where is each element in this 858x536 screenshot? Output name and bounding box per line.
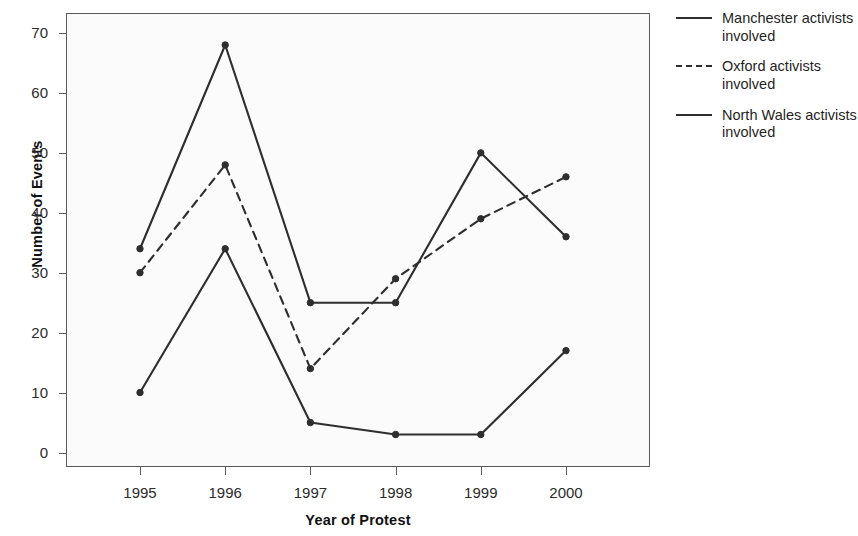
legend-dashed-line-icon bbox=[676, 65, 712, 69]
legend-label: North Wales activists involved bbox=[722, 107, 858, 142]
data-point-marker bbox=[392, 276, 398, 282]
legend-label: Manchester activists involved bbox=[722, 10, 858, 45]
legend-solid-line-icon bbox=[676, 17, 712, 21]
line-chart: Number of Events 706050403020100 1995199… bbox=[0, 0, 858, 536]
series-line bbox=[140, 45, 566, 303]
data-point-marker bbox=[307, 365, 313, 371]
data-point-marker bbox=[563, 347, 569, 353]
data-point-marker bbox=[222, 246, 228, 252]
series-3 bbox=[137, 246, 569, 438]
data-point-marker bbox=[392, 299, 398, 305]
series-line bbox=[140, 249, 566, 435]
data-point-marker bbox=[222, 42, 228, 48]
legend-entry: Oxford activists involved bbox=[676, 58, 856, 93]
data-point-marker bbox=[307, 419, 313, 425]
series-2 bbox=[137, 162, 569, 372]
data-point-marker bbox=[137, 270, 143, 276]
data-point-marker bbox=[392, 431, 398, 437]
legend-label: Oxford activists involved bbox=[722, 58, 858, 93]
series-1 bbox=[137, 42, 569, 306]
data-point-marker bbox=[137, 389, 143, 395]
data-point-marker bbox=[137, 246, 143, 252]
series-line bbox=[140, 165, 566, 369]
legend: Manchester activists involvedOxford acti… bbox=[676, 10, 856, 155]
data-point-marker bbox=[307, 299, 313, 305]
data-point-marker bbox=[563, 174, 569, 180]
data-point-marker bbox=[222, 162, 228, 168]
legend-solid-line-icon bbox=[676, 114, 712, 118]
data-point-marker bbox=[478, 431, 484, 437]
data-point-marker bbox=[478, 216, 484, 222]
legend-entry: Manchester activists involved bbox=[676, 10, 856, 45]
data-point-marker bbox=[478, 150, 484, 156]
data-point-marker bbox=[563, 234, 569, 240]
legend-entry: North Wales activists involved bbox=[676, 107, 856, 142]
